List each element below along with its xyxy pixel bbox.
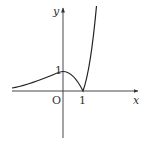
x-axis-label: x bbox=[133, 94, 140, 107]
y-axis-label: y bbox=[52, 5, 60, 18]
function-curve bbox=[12, 6, 97, 91]
x-tick-label-1: 1 bbox=[79, 94, 86, 107]
origin-label: O bbox=[52, 94, 61, 107]
function-graph: y x O 1 1 bbox=[0, 0, 149, 145]
y-tick-label-1: 1 bbox=[55, 64, 62, 77]
